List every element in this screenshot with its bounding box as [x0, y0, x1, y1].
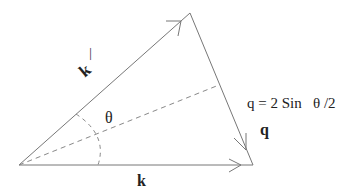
vector-triangle-diagram: k — θ k q q = 2 Sin θ /2: [0, 0, 355, 196]
theta-angle-arc: [76, 114, 100, 165]
theta-label: θ: [105, 110, 113, 126]
k-prime-mark: —: [86, 48, 98, 60]
k-label: k: [137, 173, 146, 189]
bisector-dashed-line: [19, 85, 219, 165]
k-prime-vector-line: [19, 13, 190, 165]
q-formula: q = 2 Sin θ /2: [247, 96, 336, 111]
q-arrowhead-icon: [234, 133, 246, 150]
q-label: q: [260, 122, 269, 138]
q-vector-line: [190, 13, 253, 165]
